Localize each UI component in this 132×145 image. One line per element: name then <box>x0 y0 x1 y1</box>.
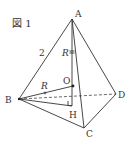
vertex-label-A: A <box>74 9 82 19</box>
radius-label-AO: R <box>61 48 69 58</box>
edge-CD <box>84 94 116 128</box>
foot-label-H: H <box>69 110 77 120</box>
figure-caption: 図 1 <box>12 18 32 29</box>
center-point-O <box>72 85 75 88</box>
vertex-label-C: C <box>86 129 93 139</box>
center-label-O: O <box>63 76 70 86</box>
edge-BD-hidden <box>19 94 116 99</box>
tetrahedron-diagram: 図 1 A B C D O H 2 R R <box>0 0 132 145</box>
vertex-label-B: B <box>5 95 12 105</box>
vertex-point-B <box>18 98 20 100</box>
right-angle-marker <box>68 101 72 106</box>
edge-length-label: 2 <box>39 48 45 58</box>
radius-label-BO: R <box>40 81 48 91</box>
vertex-label-D: D <box>118 90 125 100</box>
